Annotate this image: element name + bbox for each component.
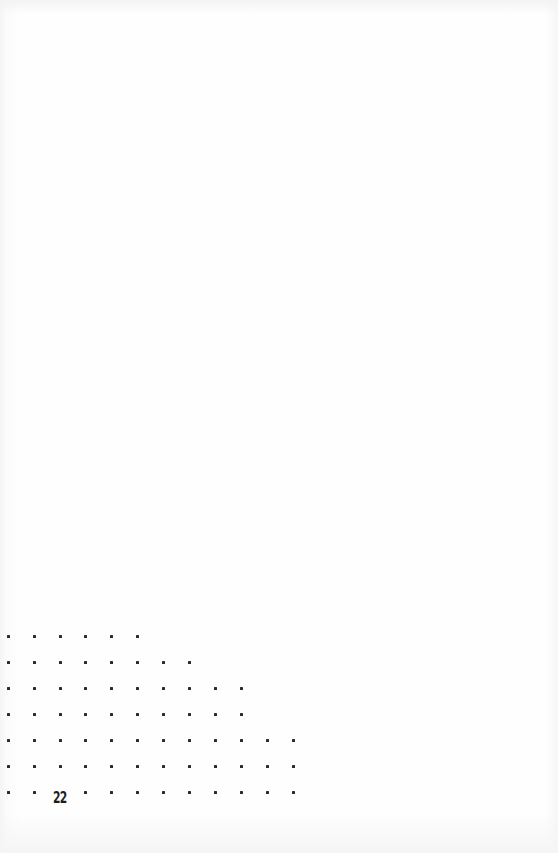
grid-dot	[59, 739, 62, 742]
grid-dot	[7, 713, 10, 716]
page-number: 22	[53, 789, 67, 807]
grid-dot	[7, 635, 10, 638]
grid-dot	[84, 713, 87, 716]
grid-dot	[188, 791, 191, 794]
grid-dot	[110, 713, 113, 716]
grid-dot	[266, 791, 269, 794]
grid-dot	[240, 765, 243, 768]
document-page: 22	[0, 0, 558, 853]
grid-dot	[214, 765, 217, 768]
grid-dot	[33, 661, 36, 664]
grid-dot	[84, 635, 87, 638]
grid-dot	[84, 661, 87, 664]
grid-dot	[136, 635, 139, 638]
grid-dot	[292, 791, 295, 794]
grid-dot	[188, 661, 191, 664]
grid-dot	[188, 739, 191, 742]
grid-dot	[110, 687, 113, 690]
grid-dot	[188, 765, 191, 768]
grid-dot	[240, 713, 243, 716]
grid-dot	[162, 739, 165, 742]
grid-dot	[214, 687, 217, 690]
grid-dot	[110, 739, 113, 742]
grid-dot	[84, 739, 87, 742]
grid-dot	[33, 765, 36, 768]
grid-dot	[33, 739, 36, 742]
grid-dot	[84, 765, 87, 768]
grid-dot	[188, 713, 191, 716]
grid-dot	[59, 635, 62, 638]
grid-dot	[59, 661, 62, 664]
grid-dot	[33, 713, 36, 716]
grid-dot	[59, 687, 62, 690]
grid-dot	[110, 765, 113, 768]
grid-dot	[136, 791, 139, 794]
grid-dot	[7, 765, 10, 768]
grid-dot	[162, 791, 165, 794]
grid-dot	[292, 739, 295, 742]
grid-dot	[7, 687, 10, 690]
grid-dot	[110, 661, 113, 664]
dot-grid	[0, 0, 558, 853]
grid-dot	[110, 635, 113, 638]
grid-dot	[59, 765, 62, 768]
grid-dot	[214, 713, 217, 716]
grid-dot	[136, 687, 139, 690]
grid-dot	[162, 765, 165, 768]
grid-dot	[136, 739, 139, 742]
grid-dot	[33, 635, 36, 638]
grid-dot	[292, 765, 295, 768]
grid-dot	[136, 765, 139, 768]
grid-dot	[266, 765, 269, 768]
grid-dot	[214, 739, 217, 742]
grid-dot	[240, 687, 243, 690]
grid-dot	[162, 687, 165, 690]
grid-dot	[33, 791, 36, 794]
grid-dot	[240, 791, 243, 794]
grid-dot	[136, 713, 139, 716]
grid-dot	[240, 739, 243, 742]
grid-dot	[162, 713, 165, 716]
grid-dot	[110, 791, 113, 794]
grid-dot	[136, 661, 139, 664]
grid-dot	[84, 791, 87, 794]
grid-dot	[188, 687, 191, 690]
grid-dot	[7, 739, 10, 742]
grid-dot	[7, 661, 10, 664]
grid-dot	[7, 791, 10, 794]
grid-dot	[84, 687, 87, 690]
grid-dot	[266, 739, 269, 742]
grid-dot	[162, 661, 165, 664]
grid-dot	[214, 791, 217, 794]
grid-dot	[59, 713, 62, 716]
grid-dot	[33, 687, 36, 690]
